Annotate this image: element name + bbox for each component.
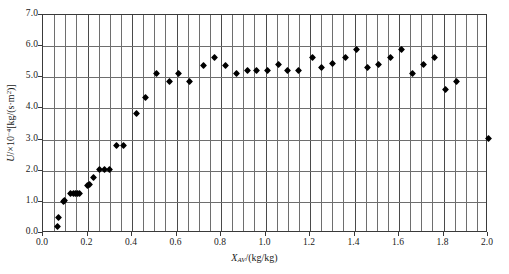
data-point xyxy=(90,174,97,181)
gridline-vertical xyxy=(110,15,111,231)
gridline-vertical xyxy=(343,15,344,231)
x-tick-label: 0.6 xyxy=(156,238,196,248)
x-tick-label: 0.2 xyxy=(67,238,107,248)
x-tick-mark xyxy=(265,232,266,236)
data-point xyxy=(200,62,207,69)
y-axis-unit-close: )] xyxy=(5,84,16,91)
x-tick-mark xyxy=(487,232,488,236)
gridline-vertical xyxy=(76,15,77,231)
data-point xyxy=(375,61,382,68)
data-point xyxy=(284,67,291,74)
gridline-vertical xyxy=(232,15,233,231)
gridline-vertical xyxy=(299,15,300,231)
y-tick-label: 1.0 xyxy=(0,196,38,206)
gridline-vertical xyxy=(243,15,244,231)
gridline-vertical xyxy=(199,15,200,231)
data-point xyxy=(186,78,193,85)
x-tick-label: 1.4 xyxy=(334,238,374,248)
y-tick-mark xyxy=(38,139,42,140)
y-tick-label: 7.0 xyxy=(0,9,38,19)
y-tick-mark xyxy=(38,14,42,15)
x-tick-label: 0.8 xyxy=(200,238,240,248)
data-point xyxy=(166,78,173,85)
gridline-vertical xyxy=(310,15,311,231)
gridline-vertical xyxy=(266,15,267,231)
y-tick-mark xyxy=(38,201,42,202)
x-tick-mark xyxy=(42,232,43,236)
x-axis-title: XAV/(kg/kg) xyxy=(0,252,509,265)
gridline-vertical xyxy=(254,15,255,231)
y-tick-label: 0.0 xyxy=(0,227,38,237)
gridline-vertical xyxy=(455,15,456,231)
gridline-horizontal xyxy=(43,202,486,203)
x-tick-mark xyxy=(443,232,444,236)
x-tick-label: 1.2 xyxy=(289,238,329,248)
data-point xyxy=(76,190,83,197)
x-axis-unit: /(kg/kg) xyxy=(245,252,277,263)
chart-figure: U/×10−4[kg/(s·m2)] 0.01.02.03.04.05.06.0… xyxy=(0,0,509,274)
gridline-horizontal xyxy=(43,77,486,78)
gridline-vertical xyxy=(288,15,289,231)
data-point xyxy=(364,64,371,71)
gridline-vertical xyxy=(143,15,144,231)
gridline-vertical xyxy=(332,15,333,231)
x-tick-label: 1.0 xyxy=(245,238,285,248)
data-point xyxy=(233,70,240,77)
y-tick-label: 4.0 xyxy=(0,102,38,112)
gridline-vertical xyxy=(366,15,367,231)
gridline-vertical xyxy=(188,15,189,231)
x-tick-mark xyxy=(354,232,355,236)
x-tick-label: 0.4 xyxy=(111,238,151,248)
data-point xyxy=(318,64,325,71)
gridline-vertical xyxy=(99,15,100,231)
x-tick-mark xyxy=(131,232,132,236)
gridline-vertical xyxy=(444,15,445,231)
x-tick-label: 2.0 xyxy=(467,238,507,248)
y-axis-symbol: U xyxy=(5,154,16,161)
gridline-vertical xyxy=(377,15,378,231)
gridline-vertical xyxy=(477,15,478,231)
gridline-vertical xyxy=(421,15,422,231)
gridline-vertical xyxy=(88,15,89,231)
y-axis-title-container: U/×10−4[kg/(s·m2)] xyxy=(0,0,20,246)
y-tick-mark xyxy=(38,76,42,77)
gridline-vertical xyxy=(388,15,389,231)
gridline-vertical xyxy=(221,15,222,231)
gridline-horizontal xyxy=(43,108,486,109)
y-tick-mark xyxy=(38,107,42,108)
y-axis-title: U/×10−4[kg/(s·m2)] xyxy=(3,84,16,161)
plot-area xyxy=(42,14,487,232)
data-point xyxy=(106,166,113,173)
gridline-vertical xyxy=(466,15,467,231)
gridline-horizontal xyxy=(43,140,486,141)
x-tick-mark xyxy=(220,232,221,236)
y-axis-unit-exponent: 2 xyxy=(5,91,12,94)
data-point xyxy=(295,67,302,74)
x-tick-label: 1.8 xyxy=(423,238,463,248)
data-point xyxy=(275,61,282,68)
gridline-vertical xyxy=(321,15,322,231)
y-tick-mark xyxy=(38,170,42,171)
gridline-vertical xyxy=(410,15,411,231)
gridline-vertical xyxy=(132,15,133,231)
y-tick-label: 3.0 xyxy=(0,134,38,144)
gridline-vertical xyxy=(177,15,178,231)
y-tick-label: 2.0 xyxy=(0,165,38,175)
x-tick-mark xyxy=(176,232,177,236)
gridline-vertical xyxy=(210,15,211,231)
data-point xyxy=(55,214,62,221)
x-tick-label: 1.6 xyxy=(378,238,418,248)
y-tick-mark xyxy=(38,45,42,46)
data-point xyxy=(244,67,251,74)
gridline-horizontal xyxy=(43,46,486,47)
gridline-vertical xyxy=(154,15,155,231)
y-tick-label: 5.0 xyxy=(0,71,38,81)
x-tick-mark xyxy=(398,232,399,236)
gridline-vertical xyxy=(54,15,55,231)
data-point xyxy=(211,54,218,61)
data-point xyxy=(222,62,229,69)
data-point xyxy=(133,110,140,117)
data-point xyxy=(329,60,336,67)
x-tick-mark xyxy=(87,232,88,236)
gridline-vertical xyxy=(121,15,122,231)
